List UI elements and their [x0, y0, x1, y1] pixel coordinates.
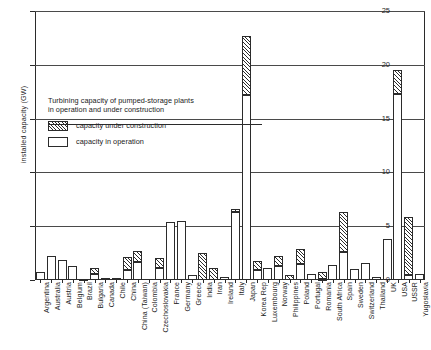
- bar-under-construction: [404, 217, 413, 275]
- bar-in-operation: [177, 221, 186, 280]
- x-label-italy: Italy: [238, 282, 245, 295]
- y-tick-label-15: 15: [370, 115, 390, 123]
- bar-under-construction: [296, 249, 305, 264]
- x-label-canada: Canada: [108, 282, 115, 307]
- bar-under-construction: [339, 212, 348, 252]
- x-label-thailand: Thailand: [379, 282, 386, 310]
- bar-in-operation: [133, 262, 142, 280]
- x-label-ussr: USSR: [411, 282, 418, 302]
- x-label-colombia: Colombia: [151, 282, 158, 312]
- bar-in-operation: [166, 222, 175, 280]
- x-label-germany: Germany: [184, 282, 191, 312]
- bar-in-operation: [36, 272, 45, 280]
- bar-in-operation: [296, 264, 305, 280]
- x-label-portugal: Portugal: [314, 282, 321, 309]
- gridline-10: [35, 172, 425, 173]
- x-label-bulgaria: Bulgaria: [97, 282, 104, 308]
- x-label-romania: Romania: [325, 282, 332, 311]
- bar-under-construction: [231, 209, 240, 212]
- x-label-austria: Austria: [65, 282, 72, 305]
- x-label-norway: Norway: [281, 282, 288, 306]
- x-label-greece: Greece: [195, 282, 202, 306]
- chart-legend: Turbining capacity of pumped-storage pla…: [48, 96, 263, 147]
- x-label-ireland: Ireland: [227, 282, 234, 304]
- y-tick-25: [30, 11, 35, 12]
- legend-label-under-construction: capacity under construction: [76, 121, 166, 130]
- x-label-uk: UK: [390, 282, 397, 292]
- y-tick-label-5: 5: [370, 222, 390, 230]
- x-label-australia: Australia: [54, 282, 61, 310]
- y-tick-label-10: 10: [370, 168, 390, 176]
- bar-under-construction: [123, 257, 132, 270]
- y-tick-5: [30, 226, 35, 227]
- legend-label-in-operation: capacity in operation: [76, 137, 144, 146]
- bar-in-operation: [393, 94, 402, 280]
- x-label-philippines: Philippines: [292, 282, 299, 317]
- bar-in-operation: [274, 266, 283, 280]
- x-label-argentina: Argentina: [43, 282, 50, 313]
- x-label-czechoslovakia: Czechoslovakia: [162, 282, 169, 332]
- gridline-25: [35, 11, 425, 12]
- x-label-brazil: Brazil: [86, 282, 93, 300]
- bar-in-operation: [350, 269, 359, 280]
- x-label-france: France: [173, 282, 180, 304]
- bar-in-operation: [231, 212, 240, 280]
- x-label-korea-rep: Korea Rep: [260, 282, 267, 316]
- y-tick-20: [30, 65, 35, 66]
- bar-in-operation: [263, 268, 272, 280]
- bar-under-construction: [133, 251, 142, 262]
- bar-under-construction: [274, 256, 283, 266]
- x-label-poland: Poland: [303, 282, 310, 304]
- bar-under-construction: [209, 268, 218, 280]
- legend-swatch-open-icon: [48, 137, 68, 147]
- bar-in-operation: [328, 265, 337, 280]
- x-label-iran: Iran: [216, 282, 223, 294]
- y-tick-15: [30, 119, 35, 120]
- bar-in-operation: [68, 266, 77, 280]
- x-label-japan: Japan: [249, 282, 256, 302]
- x-label-china-taiwan: China (Taiwan): [141, 282, 148, 330]
- x-label-switzerland: Switzerland: [368, 282, 375, 319]
- x-label-india: India: [206, 282, 213, 298]
- bar-in-operation: [361, 263, 370, 280]
- x-axis-category-labels: ArgentinaAustraliaAustriaBelgiumBrazilBu…: [35, 282, 425, 350]
- bar-in-operation: [123, 270, 132, 280]
- bar-under-construction: [90, 268, 99, 274]
- bar-in-operation: [383, 239, 392, 280]
- x-label-usa: USA: [401, 282, 408, 297]
- y-axis-title: installed capacity (GW): [19, 50, 28, 200]
- legend-title-line-1: Turbining capacity of pumped-storage pla…: [48, 96, 194, 105]
- y-tick-label-20: 20: [370, 61, 390, 69]
- legend-swatch-hatched-icon: [48, 121, 68, 131]
- legend-title: Turbining capacity of pumped-storage pla…: [48, 96, 263, 115]
- bar-under-construction: [155, 258, 164, 268]
- plot-right-border: [424, 11, 425, 280]
- x-label-china: China: [130, 282, 137, 301]
- y-tick-0: [30, 280, 35, 281]
- legend-underline: [48, 124, 262, 125]
- bar-in-operation: [155, 268, 164, 280]
- x-label-spain: Spain: [346, 282, 353, 300]
- legend-item-in-operation: capacity in operation: [48, 137, 263, 147]
- legend-title-line-2: in operation and under construction: [48, 105, 164, 114]
- x-label-chile: Chile: [119, 282, 126, 298]
- bar-in-operation: [58, 260, 67, 280]
- x-label-south-africa: South Africa: [336, 282, 343, 321]
- y-tick-10: [30, 172, 35, 173]
- bar-in-operation: [253, 270, 262, 280]
- y-axis-line: [35, 11, 36, 280]
- x-label-sweden: Sweden: [357, 282, 364, 308]
- legend-item-under-construction: capacity under construction: [48, 121, 263, 131]
- bar-in-operation: [47, 256, 56, 280]
- bar-under-construction: [242, 36, 251, 95]
- bar-under-construction: [393, 70, 402, 94]
- gridline-20: [35, 65, 425, 66]
- bar-in-operation: [339, 252, 348, 280]
- bar-under-construction: [198, 253, 207, 280]
- bar-under-construction: [318, 272, 327, 278]
- chart-figure: installed capacity (GW) 0510152025 Argen…: [0, 0, 431, 350]
- x-label-yugoslavia: Yugoslavia: [422, 282, 429, 317]
- x-label-luxembourg: Luxembourg: [271, 282, 278, 322]
- x-label-belgium: Belgium: [76, 282, 83, 308]
- y-tick-label-25: 25: [370, 7, 390, 15]
